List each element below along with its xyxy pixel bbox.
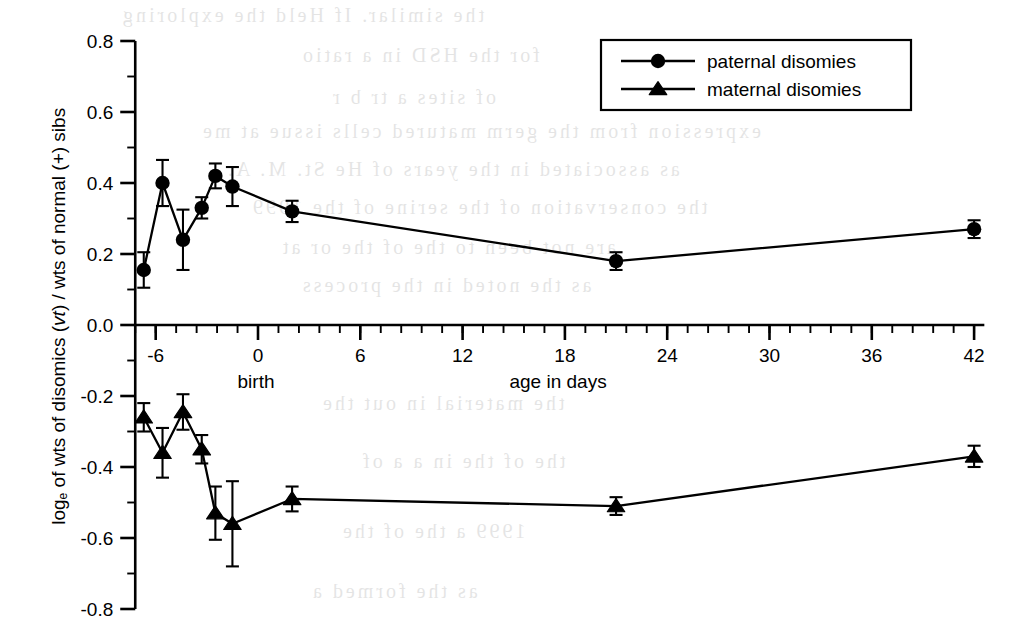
birth-annotation-label: birth [238, 371, 275, 392]
data-point-marker-circle [285, 204, 299, 218]
y-axis-tick-label: -0.2 [80, 386, 113, 407]
x-axis-tick-label: 36 [861, 345, 882, 366]
data-point-marker-triangle [135, 410, 152, 423]
y-axis-title-italic: vt [48, 311, 69, 326]
data-point-marker-circle [137, 263, 151, 277]
y-axis-tick-label: -0.8 [80, 599, 113, 620]
y-axis-title-log: log [48, 499, 69, 524]
x-axis-tick-label: 30 [759, 345, 780, 366]
data-point-marker-circle [195, 201, 209, 215]
y-axis-title-subscript: e [56, 493, 70, 500]
data-series-paternal [137, 160, 982, 288]
data-point-marker-circle [155, 176, 169, 190]
data-point-marker-circle [651, 54, 665, 68]
y-axis-tick-label: 0.0 [87, 315, 113, 336]
series-line [144, 176, 974, 270]
x-axis-tick-label: 24 [657, 345, 679, 366]
x-axis-tick-label: -6 [147, 345, 164, 366]
data-point-marker-circle [176, 233, 190, 247]
y-axis-tick-label: 0.8 [87, 31, 113, 52]
series-line [144, 412, 974, 524]
x-axis-tick-label: 12 [452, 345, 473, 366]
data-point-marker-triangle [193, 442, 210, 455]
plot-canvas: -606121824303642age in days 0.80.60.40.2… [0, 0, 1021, 630]
y-axis-tick-label: 0.6 [87, 102, 113, 123]
legend: paternal disomiesmaternal disomies [601, 40, 911, 110]
y-axis-tick-label: 0.4 [87, 173, 114, 194]
data-point-marker-circle [208, 169, 222, 183]
data-point-marker-triangle [224, 516, 241, 529]
y-axis-title-mid: of wts of disomics ( [48, 326, 69, 493]
y-axis: 0.80.60.40.20.0-0.2-0.4-0.6-0.8 [80, 31, 135, 620]
data-point-marker-triangle [207, 506, 224, 519]
legend-item-label: paternal disomies [707, 51, 856, 72]
data-point-marker-triangle [174, 405, 191, 418]
annotation-group: birth [238, 371, 275, 392]
y-axis-tick-label: -0.6 [80, 528, 113, 549]
data-series-maternal [135, 394, 983, 566]
x-axis-tick-label: 6 [355, 345, 366, 366]
x-axis-tick-label: 18 [554, 345, 575, 366]
legend-item-label: maternal disomies [707, 79, 861, 100]
data-point-marker-triangle [154, 445, 171, 458]
data-point-marker-circle [609, 254, 623, 268]
x-axis-title: age in days [509, 371, 606, 392]
data-point-marker-triangle [965, 449, 982, 462]
data-point-marker-circle [225, 179, 239, 193]
y-axis-tick-label: 0.2 [87, 244, 113, 265]
data-point-marker-circle [967, 222, 981, 236]
y-axis-title-suffix: ) / wts of normal (+) sibs [48, 108, 69, 311]
figure-panel: -606121824303642age in days 0.80.60.40.2… [0, 0, 1021, 630]
x-axis-tick-label: 0 [253, 345, 264, 366]
y-axis-title: loge of wts of disomics (vt) / wts of no… [49, 51, 70, 581]
y-axis-tick-label: -0.4 [80, 457, 113, 478]
x-axis-tick-label: 42 [964, 345, 985, 366]
